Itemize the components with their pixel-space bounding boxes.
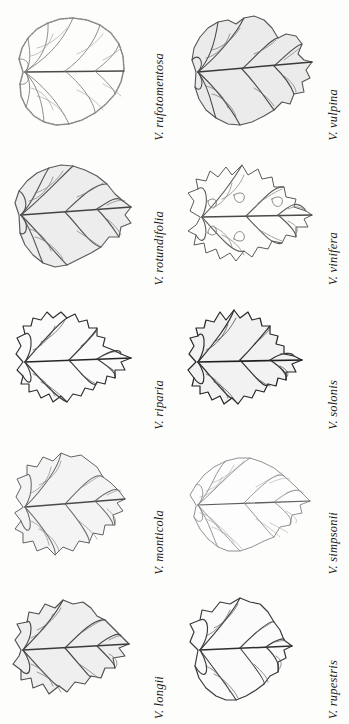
leaf-label-container: V. solonis	[318, 294, 349, 430]
leaf-grid: V. rufotomentosa	[0, 0, 349, 724]
leaf-drawing	[3, 439, 143, 575]
species-label: V. rotundifolia	[153, 209, 166, 286]
leaf-drawing	[3, 584, 143, 720]
species-label: V. simpsonii	[327, 510, 340, 575]
leaf-drawing	[178, 149, 318, 285]
leaf-drawing	[3, 294, 143, 430]
leaf-cell: V. solonis	[175, 290, 349, 435]
leaf-label-container: V. rupestris	[318, 584, 349, 720]
leaf-label-container: V. riparia	[143, 294, 175, 430]
species-label: V. rupestris	[327, 658, 340, 719]
leaf-drawing	[178, 439, 318, 575]
species-label: V. riparia	[153, 378, 166, 430]
leaf-label-container: V. rotundifolia	[143, 149, 175, 285]
leaf-cell: V. riparia	[0, 290, 175, 435]
leaf-label-container: V. vinifera	[318, 149, 349, 285]
leaf-cell: V. vinifera	[175, 145, 349, 290]
species-label: V. rufotomentosa	[153, 51, 166, 141]
botanical-plate: V. rufotomentosa	[0, 0, 349, 724]
leaf-cell: V. monticola	[0, 434, 175, 579]
leaf-cell: V. simpsonii	[175, 434, 349, 579]
leaf-cell: V. rotundifolia	[0, 145, 175, 290]
leaf-illustration-longii	[3, 584, 143, 720]
leaf-label-container: V. simpsonii	[318, 439, 349, 575]
leaf-label-container: V. vulpina	[318, 4, 349, 140]
species-label: V. monticola	[153, 508, 166, 575]
leaf-illustration-monticola	[3, 439, 143, 575]
leaf-illustration-rufotomentosa	[3, 4, 143, 140]
leaf-drawing	[178, 584, 318, 720]
leaf-drawing	[3, 149, 143, 285]
leaf-illustration-vulpina	[178, 4, 318, 140]
species-label: V. solonis	[327, 378, 340, 430]
leaf-cell: V. rufotomentosa	[0, 0, 175, 145]
leaf-illustration-solonis	[178, 294, 318, 430]
leaf-illustration-simpsonii	[178, 439, 318, 575]
leaf-illustration-rotundifolia	[3, 149, 143, 285]
leaf-drawing	[178, 4, 318, 140]
species-label: V. vinifera	[327, 230, 340, 285]
leaf-cell: V. longii	[0, 579, 175, 724]
leaf-illustration-rupestris	[178, 584, 318, 720]
species-label: V. longii	[153, 674, 166, 719]
leaf-label-container: V. longii	[143, 584, 175, 720]
leaf-cell: V. vulpina	[175, 0, 349, 145]
leaf-cell: V. rupestris	[175, 579, 349, 724]
leaf-label-container: V. monticola	[143, 439, 175, 575]
leaf-drawing	[3, 4, 143, 140]
leaf-label-container: V. rufotomentosa	[143, 4, 175, 140]
leaf-drawing	[178, 294, 318, 430]
leaf-illustration-vinifera	[178, 149, 318, 285]
species-label: V. vulpina	[327, 87, 340, 141]
leaf-illustration-riparia	[3, 294, 143, 430]
